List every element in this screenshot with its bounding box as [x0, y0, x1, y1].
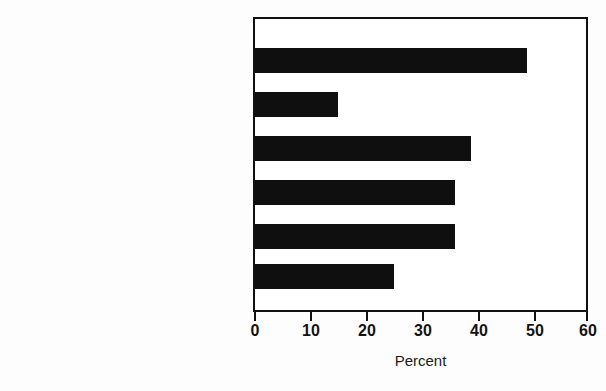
x-tick-mark-10 [310, 312, 312, 321]
x-tick-label-50: 50 [513, 322, 557, 340]
x-tick-label-0: 0 [233, 322, 277, 340]
x-tick-mark-50 [534, 312, 536, 321]
x-tick-label-30: 30 [401, 322, 445, 340]
x-tick-mark-20 [366, 312, 368, 321]
x-tick-mark-60 [586, 312, 588, 321]
x-tick-label-20: 20 [345, 322, 389, 340]
x-tick-label-10: 10 [289, 322, 333, 340]
bar-row [255, 136, 588, 161]
bar-foreign-stock[interactable] [255, 92, 338, 117]
bar-row [255, 92, 588, 117]
x-tick-label-40: 40 [457, 322, 501, 340]
bar-chart-figure: Parents Owned a Business Foreign Stock H… [0, 0, 606, 391]
bar-age-41-or-more[interactable] [255, 264, 394, 289]
x-tick-mark-40 [478, 312, 480, 321]
bar-college-degree-or-more[interactable] [255, 180, 455, 205]
bar-row [255, 48, 588, 73]
bar-age-30-or-less[interactable] [255, 224, 455, 249]
bar-row [255, 180, 588, 205]
x-tick-mark-0 [254, 312, 256, 321]
bar-row [255, 264, 588, 289]
bar-parents-owned-a-business[interactable] [255, 48, 527, 73]
x-tick-mark-30 [422, 312, 424, 321]
bar-high-school-degree-or-less[interactable] [255, 136, 471, 161]
x-tick-label-60: 60 [566, 322, 606, 340]
x-axis-title: Percent [253, 352, 588, 369]
bar-row [255, 224, 588, 249]
